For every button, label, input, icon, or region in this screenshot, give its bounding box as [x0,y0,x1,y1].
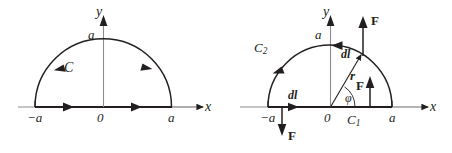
axis-arrow-r [288,103,299,112]
right-x-axis-label: x [430,99,436,115]
right-origin-label: 0 [324,110,331,126]
force-arrowhead-right [366,76,375,88]
axis-arrow-right [131,103,142,112]
figure-vector-layer [0,0,452,153]
c1-letter: C [347,112,356,127]
right-contour-label-C1: C1 [347,112,360,128]
right-force-label-F-bottom: F [288,128,296,144]
right-contour-label-C2: C2 [254,40,267,56]
c2-subscript: 2 [263,46,268,56]
right-y-tick-a-label: a [315,27,322,43]
left-panel-group [18,15,203,111]
left-y-tick-a-label: a [88,27,95,43]
right-force-label-F-right: F [356,78,364,94]
arc-direction-arrowheads-r [273,41,343,73]
left-origin-label: 0 [97,110,104,126]
force-arrowhead-top [358,16,367,28]
c1-subscript: 1 [356,118,361,128]
arc-arrow-right [140,64,152,71]
right-radius-vector-label-r: r [350,68,355,84]
left-contour-label-C: C [64,60,73,76]
right-x-tick-negative-a-label: −a [260,110,275,126]
c2-letter: C [254,40,263,55]
axis-arrow-left [63,103,74,112]
right-angle-label-phi: φ [345,91,352,106]
right-y-axis-label: y [323,4,329,20]
left-x-axis-label: x [205,99,211,115]
right-force-label-F-top: F [371,13,379,29]
force-arrowhead-bottom [278,124,287,136]
left-y-axis-label: y [96,4,102,20]
right-element-label-dl-axis: dl [288,88,297,103]
left-x-tick-negative-a-label: −a [27,110,42,126]
figure-canvas: y a x −a a 0 C y a x −a a 0 C1 C2 dl dl … [0,0,452,153]
right-x-tick-positive-a-label: a [389,110,396,126]
left-x-tick-positive-a-label: a [168,110,175,126]
right-element-label-dl-arc: dl [341,47,350,62]
